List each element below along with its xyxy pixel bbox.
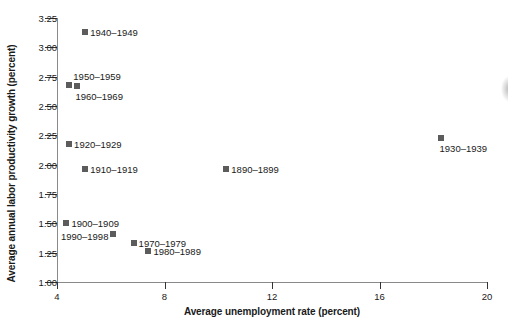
data-point-label: 1890–1899 [231, 164, 279, 175]
data-point-label: 1900–1909 [71, 218, 119, 229]
y-tick-label: 1.50 [31, 218, 57, 229]
data-point-marker[interactable] [66, 82, 72, 88]
data-point-label: 1990–1998 [61, 230, 109, 241]
x-tick-label: 20 [482, 291, 493, 302]
scatter-chart: Average annual labor productivity growth… [0, 0, 508, 327]
x-tick-label: 4 [54, 291, 59, 302]
y-tick-label: 1.00 [31, 277, 57, 288]
x-tick-mark [57, 282, 58, 289]
y-axis-label: Average annual labor productivity growth… [0, 0, 22, 327]
y-axis-line [57, 18, 58, 282]
data-point-marker[interactable] [110, 231, 116, 237]
data-point-marker[interactable] [131, 240, 137, 246]
data-point-label: 1980–1989 [153, 246, 201, 257]
y-tick-label: 3.25 [31, 13, 57, 24]
y-tick-label: 2.25 [31, 130, 57, 141]
data-point-marker[interactable] [223, 166, 229, 172]
x-tick-label: 16 [374, 291, 385, 302]
y-tick-label: 2.00 [31, 159, 57, 170]
y-tick-label: 2.75 [31, 71, 57, 82]
x-axis-label: Average unemployment rate (percent) [57, 306, 487, 317]
x-tick-label: 12 [267, 291, 278, 302]
data-point-label: 1920–1929 [74, 138, 122, 149]
x-tick-mark [380, 282, 381, 289]
y-tick-label: 3.00 [31, 42, 57, 53]
data-point-marker[interactable] [74, 83, 80, 89]
x-tick-mark [165, 282, 166, 289]
data-point-marker[interactable] [66, 141, 72, 147]
data-point-marker[interactable] [82, 29, 88, 35]
y-tick-label: 2.50 [31, 101, 57, 112]
x-tick-mark [487, 282, 488, 289]
y-tick-label: 1.25 [31, 247, 57, 258]
data-point-label: 1910–1919 [90, 164, 138, 175]
y-tick-label: 1.75 [31, 189, 57, 200]
data-point-marker[interactable] [438, 135, 444, 141]
data-point-marker[interactable] [63, 220, 69, 226]
data-point-marker[interactable] [145, 248, 151, 254]
x-tick-label: 8 [162, 291, 167, 302]
scan-artifact [501, 76, 508, 102]
data-point-label: 1960–1969 [75, 91, 123, 102]
x-tick-mark [272, 282, 273, 289]
data-point-marker[interactable] [82, 166, 88, 172]
data-point-label: 1950–1959 [73, 71, 121, 82]
data-point-label: 1930–1939 [440, 143, 488, 154]
data-point-label: 1940–1949 [90, 27, 138, 38]
